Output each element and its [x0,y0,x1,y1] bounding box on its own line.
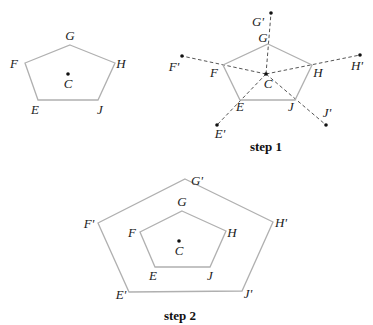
dilation-diagram: GHJEFC G'H'J'E'F'GHJEFCstep 1 G'H'J'E'F'… [0,0,373,325]
vertex-label-J: J [288,99,295,114]
center-label: C [264,76,273,91]
image-label-E': E' [214,126,226,141]
vertex-label-G: G [65,28,75,43]
center-label: C [64,76,73,91]
vertex-label-E: E [148,268,157,283]
image-label-H': H' [350,58,363,73]
vertex-label-J: J [97,102,104,117]
vertex-label-H: H [226,225,237,240]
image-point [269,11,273,15]
step2-caption: step 2 [164,308,196,323]
pentagon-outline [223,44,312,100]
step1-construction: G'H'J'E'F'GHJEFCstep 1 [168,11,364,154]
vertex-label-G: G [258,30,268,45]
image-label-F': F' [168,59,180,74]
image-point [358,53,362,57]
vertex-label-F: F [9,56,19,71]
vertex-label-H: H [115,56,126,71]
image-point [180,54,184,58]
image-label-F': F' [83,216,95,231]
image-label-E': E' [115,287,127,302]
vertex-label-F: F [209,65,219,80]
image-label-G': G' [191,173,203,188]
vertex-label-E: E [235,99,244,114]
image-label-H': H' [274,215,287,230]
image-label-J': J' [244,286,253,301]
vertex-label-J: J [207,268,214,283]
vertex-label-E: E [30,102,39,117]
pentagon-outline [140,211,226,267]
original-pentagon: GHJEFC [9,28,126,117]
image-point [324,123,328,127]
vertex-label-G: G [177,194,187,209]
pentagon-outline [25,45,115,100]
step1-caption: step 1 [250,139,282,154]
image-label-J': J' [323,105,332,120]
image-label-G': G' [252,14,264,29]
vertex-label-H: H [312,65,323,80]
vertex-label-F: F [127,225,137,240]
center-label: C [175,243,184,258]
step2-result: G'H'J'E'F'GHJEFCstep 2 [83,173,288,323]
